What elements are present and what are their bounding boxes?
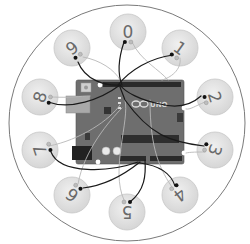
pad-label: 0 — [123, 22, 134, 42]
pad-terminal-dark — [204, 142, 208, 146]
analog-header — [150, 156, 182, 161]
pad-label: 5 — [122, 202, 133, 222]
diagram-canvas: 0123456789 UNO — [0, 0, 250, 244]
touch-pad-5: 5 — [109, 194, 145, 230]
usb-chip — [104, 107, 111, 114]
pad-terminal-light — [78, 52, 82, 56]
mounting-hole — [182, 106, 187, 111]
pad-terminal-light — [175, 56, 179, 60]
pad-terminal-dark — [174, 183, 178, 187]
pad-terminal-light — [47, 142, 51, 146]
pad-terminal-light — [204, 101, 208, 105]
touch-pad-2: 2 — [197, 79, 233, 115]
pad-terminal-dark — [48, 148, 52, 152]
pad-terminal-light — [122, 200, 126, 204]
pad-terminal-dark — [170, 52, 174, 56]
pad-terminal-light — [129, 40, 133, 44]
pad-terminal-light — [170, 187, 174, 191]
pad-terminal-light — [74, 183, 78, 187]
power-header — [120, 156, 146, 161]
pad-terminal-dark — [203, 95, 207, 99]
touch-pad-6: 6 — [54, 177, 90, 213]
pad-terminal-dark — [73, 56, 77, 60]
touch-pad-9: 9 — [54, 30, 90, 66]
pad-terminal-light — [203, 148, 207, 152]
touch-pad-4: 4 — [162, 177, 198, 213]
pad-terminal-light — [48, 95, 52, 99]
pad-terminal-dark — [47, 101, 51, 105]
touch-pad-7: 7 — [22, 132, 58, 168]
capacitor — [102, 147, 110, 155]
pad-terminal-dark — [123, 40, 127, 44]
pad-terminal-dark — [128, 200, 132, 204]
touch-pad-0: 0 — [110, 14, 146, 50]
pad-terminal-dark — [78, 187, 82, 191]
mounting-hole — [96, 160, 101, 165]
arduino-board: UNO — [66, 80, 186, 164]
